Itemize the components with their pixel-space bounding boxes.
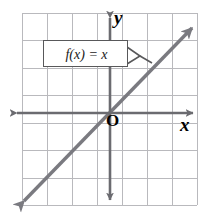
function-label-callout-box: f(x) = x bbox=[43, 40, 128, 67]
origin-label: O bbox=[106, 112, 119, 129]
coordinate-plane-svg bbox=[0, 0, 205, 217]
callout-leader-tail bbox=[140, 56, 152, 63]
function-label-text: f(x) = x bbox=[44, 41, 129, 68]
y-axis-label: y bbox=[114, 8, 122, 27]
x-axis-label: x bbox=[180, 115, 190, 134]
graph-figure: f(x) = x y x O bbox=[0, 0, 205, 217]
